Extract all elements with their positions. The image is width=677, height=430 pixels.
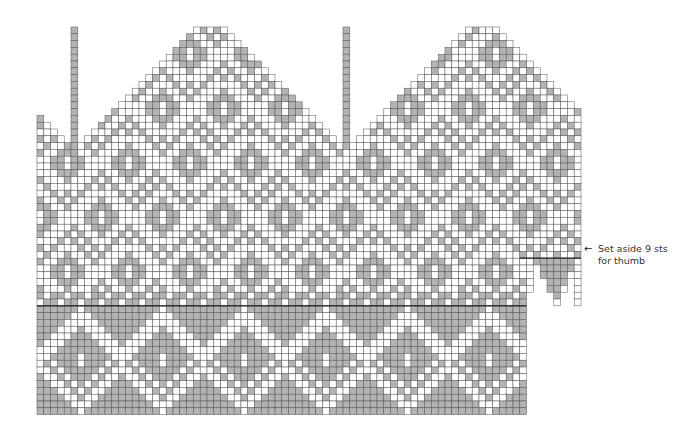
arrow-left-icon: ← bbox=[584, 243, 592, 254]
thumb-annotation: Set aside 9 sts for thumb bbox=[598, 243, 668, 267]
annotation-line-2: for thumb bbox=[598, 255, 668, 267]
chart-grid bbox=[0, 0, 677, 430]
knitting-chart bbox=[0, 0, 677, 430]
annotation-line-1: Set aside 9 sts bbox=[598, 243, 668, 255]
